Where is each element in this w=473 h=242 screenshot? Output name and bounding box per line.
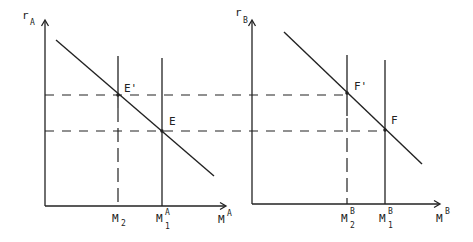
- panel-a-y-axis-label: r: [22, 9, 29, 22]
- panel-b: r B F' F M B 2 M B 1 M B: [235, 6, 450, 230]
- panel-a-m1-label: M: [156, 212, 163, 225]
- panel-b-m1-superscript: B: [388, 207, 393, 216]
- panel-a-m1-subscript: 1: [165, 222, 170, 231]
- panel-a-demand-curve: [56, 40, 214, 176]
- two-panel-money-market-diagram: r A E' E M 2 M 1 A M A r B: [0, 0, 473, 242]
- panel-b-m1-label: M: [379, 212, 386, 225]
- panel-b-point-f-prime-label: F': [354, 80, 367, 93]
- panel-b-x-axis-superscript: B: [445, 207, 450, 216]
- panel-b-demand-curve: [284, 32, 422, 164]
- panel-b-m1-subscript: 1: [388, 221, 393, 230]
- panel-a-point-e-label: E: [169, 115, 176, 128]
- panel-b-point-f-label: F: [391, 114, 398, 127]
- panel-a-point-e-prime-label: E': [124, 82, 137, 95]
- panel-b-m2-superscript: B: [350, 207, 355, 216]
- panel-a: r A E' E M 2 M 1 A M A: [22, 9, 385, 231]
- panel-a-point-e: [160, 129, 164, 133]
- panel-b-m2-subscript: 2: [350, 221, 355, 230]
- panel-a-point-e-prime: [116, 93, 120, 97]
- panel-b-point-f-prime: [345, 91, 349, 95]
- panel-a-m1-superscript: A: [165, 208, 170, 217]
- panel-a-x-axis-superscript: A: [227, 209, 232, 218]
- panel-b-y-axis-label: r: [235, 6, 242, 19]
- panel-a-y-axis-subscript: A: [30, 18, 35, 27]
- panel-b-x-axis-label: M: [436, 212, 443, 225]
- panel-b-point-f: [383, 128, 387, 132]
- panel-b-m2-label: M: [341, 212, 348, 225]
- panel-b-y-axis-subscript: B: [243, 16, 248, 25]
- panel-a-m2-label: M: [112, 212, 119, 225]
- panel-a-m2-subscript: 2: [121, 219, 126, 228]
- panel-a-x-axis-label: M: [218, 213, 225, 226]
